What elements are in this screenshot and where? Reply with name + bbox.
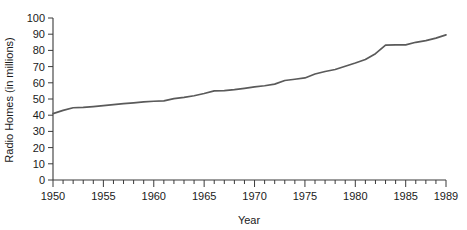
x-tick-label: 1960 [142,190,166,202]
x-axis-ticks [53,180,446,187]
x-tick-label: 1985 [393,190,417,202]
x-tick-label: 1989 [434,190,458,202]
line-chart-figure: Radio Homes (in millions) Year 010203040… [0,0,467,230]
y-axis-title: Radio Homes (in millions) [3,37,15,162]
x-tick-label: 1970 [242,190,266,202]
y-tick-label: 60 [33,77,45,89]
x-axis-title: Year [238,214,261,226]
y-tick-label: 40 [33,109,45,121]
data-series-group [53,35,446,114]
x-tick-label: 1975 [293,190,317,202]
x-axis-tick-labels: 195019551960196519701975198019851989 [41,190,458,202]
y-tick-label: 70 [33,61,45,73]
y-tick-label: 50 [33,93,45,105]
y-axis-tick-labels: 0102030405060708090100 [27,12,45,186]
y-tick-label: 80 [33,44,45,56]
x-tick-label: 1950 [41,190,65,202]
y-tick-label: 90 [33,28,45,40]
y-tick-label: 30 [33,125,45,137]
x-tick-label: 1980 [343,190,367,202]
x-tick-label: 1955 [91,190,115,202]
y-tick-label: 10 [33,158,45,170]
data-line-radio-homes [53,35,446,114]
chart-svg: Radio Homes (in millions) Year 010203040… [0,0,467,230]
y-tick-label: 0 [39,174,45,186]
y-tick-label: 20 [33,142,45,154]
y-tick-label: 100 [27,12,45,24]
y-axis-ticks [48,18,53,180]
x-tick-label: 1965 [192,190,216,202]
